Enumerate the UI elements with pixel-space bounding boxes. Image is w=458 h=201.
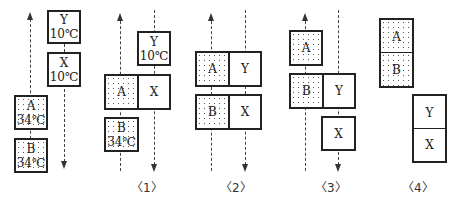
block-b: B 34℃ xyxy=(14,138,48,173)
block-label: A xyxy=(117,85,126,99)
block-a: A xyxy=(104,74,139,110)
block-label: X xyxy=(150,85,159,99)
block-label: B xyxy=(208,105,217,119)
block-label: B xyxy=(392,63,401,77)
block-y: Y xyxy=(228,51,262,87)
block-label: B xyxy=(302,84,311,98)
arrow-down-icon xyxy=(61,161,67,169)
block-label: A xyxy=(27,99,36,113)
block-label: B xyxy=(27,142,36,156)
block-a: A xyxy=(195,51,230,87)
caption-2: 〈2〉 xyxy=(220,178,252,195)
block-b: B xyxy=(195,94,230,130)
block-y: Y 10℃ xyxy=(137,31,171,66)
block-a: A xyxy=(379,18,414,54)
block-label: A xyxy=(392,30,401,44)
block-a: A xyxy=(289,30,323,66)
block-label: Y xyxy=(426,106,434,120)
arrow-down-icon xyxy=(335,164,341,172)
caption-1: 〈1〉 xyxy=(131,178,163,195)
block-a: A 34℃ xyxy=(14,95,48,130)
block-temp: 34℃ xyxy=(107,135,136,149)
arrow-up-icon xyxy=(302,13,308,21)
block-x: X 10℃ xyxy=(47,52,81,87)
caption-4: 〈4〉 xyxy=(402,178,434,195)
block-label: A xyxy=(302,41,311,55)
arrow-down-icon xyxy=(151,164,157,172)
block-label: X xyxy=(334,127,343,141)
right-flow-line xyxy=(245,10,246,165)
block-label: Y xyxy=(241,62,249,76)
block-y: Y xyxy=(322,73,356,109)
block-b: B xyxy=(379,52,414,88)
block-x: X xyxy=(321,116,356,151)
arrow-up-icon xyxy=(208,13,214,21)
block-b: B xyxy=(289,73,324,109)
block-temp: 10℃ xyxy=(50,70,79,84)
block-label: Y xyxy=(150,35,158,49)
block-x: X xyxy=(228,94,262,130)
block-x: X xyxy=(137,74,171,110)
block-temp: 10℃ xyxy=(140,49,169,63)
block-label: Y xyxy=(60,13,68,27)
block-label: B xyxy=(117,121,126,135)
block-label: Y xyxy=(335,84,343,98)
block-label: X xyxy=(425,138,434,152)
block-temp: 34℃ xyxy=(17,156,46,170)
arrow-down-icon xyxy=(242,164,248,172)
block-label: X xyxy=(241,105,250,119)
caption-3: 〈3〉 xyxy=(315,178,347,195)
block-y: Y xyxy=(412,94,447,130)
block-y: Y 10℃ xyxy=(47,10,81,44)
arrow-up-icon xyxy=(27,12,33,20)
block-b: B 34℃ xyxy=(104,117,139,152)
block-temp: 10℃ xyxy=(50,27,79,41)
block-temp: 34℃ xyxy=(17,113,46,127)
block-label: A xyxy=(208,62,217,76)
arrow-up-icon xyxy=(117,13,123,21)
block-label: X xyxy=(60,56,69,70)
block-x: X xyxy=(412,128,447,163)
